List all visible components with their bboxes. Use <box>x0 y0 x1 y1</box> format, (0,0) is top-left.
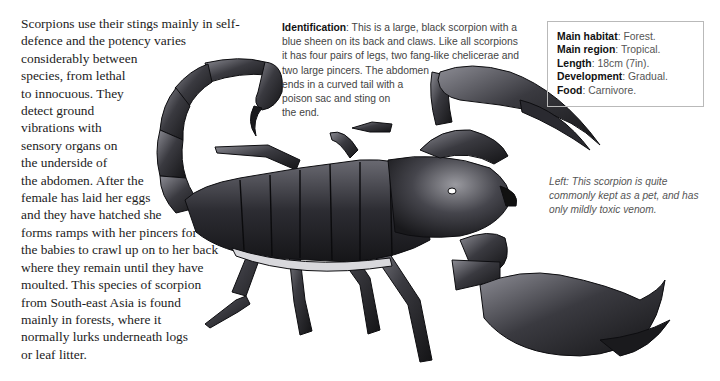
main-text-line: Scorpions use their stings mainly in sel… <box>21 15 261 32</box>
identification-text: it has four pairs of legs, two fang-like… <box>282 49 522 63</box>
fact-value: : Gradual. <box>622 71 668 82</box>
identification-text: the end. <box>282 106 522 120</box>
main-text-line: female has laid her eggs <box>21 189 261 206</box>
fact-value: : 18cm (7in). <box>592 58 650 69</box>
fact-main-habitat: Main habitat: Forest. <box>557 30 703 43</box>
main-text-line: where they remain until they have <box>21 259 261 276</box>
identification-text: poison sac and sting on <box>282 92 522 106</box>
fact-main-region: Main region: Tropical. <box>557 43 703 56</box>
main-text-line: moulted. This species of scorpion <box>21 276 261 293</box>
identification-text: ends in a curved tail with a <box>282 78 522 92</box>
fact-development: Development: Gradual. <box>557 70 703 83</box>
main-paragraph: Scorpions use their stings mainly in sel… <box>21 15 261 363</box>
head <box>388 156 517 237</box>
main-text-line: species, from lethal <box>21 67 261 84</box>
main-text-line: from South-east Asia is found <box>21 294 261 311</box>
lower-pincer <box>452 233 670 356</box>
caption-line: Left: This scorpion is quite <box>549 175 719 189</box>
fact-label: Development <box>557 71 622 82</box>
main-text-line: mainly in forests, where it <box>21 311 261 328</box>
main-text-line: the underside of <box>21 154 261 171</box>
main-text-line: sensory organs on <box>21 137 261 154</box>
fact-label: Length <box>557 58 592 69</box>
fact-length: Length: 18cm (7in). <box>557 57 703 70</box>
fact-label: Food <box>557 85 582 96</box>
main-text-line: or leaf litter. <box>21 346 261 363</box>
facts-box: Main habitat: Forest. Main region: Tropi… <box>547 21 704 107</box>
caption-line: only mildly toxic venom. <box>549 203 719 217</box>
identification-text: two large pincers. The abdomen <box>282 64 522 78</box>
main-text-line: the babies to crawl up on to her back <box>21 241 261 258</box>
image-caption: Left: This scorpion is quite commonly ke… <box>549 175 719 218</box>
main-text-line: forms ramps with her pincers for <box>21 224 261 241</box>
main-text-line: considerably between <box>21 50 261 67</box>
main-text-line: the abdomen. After the <box>21 172 261 189</box>
main-text-line: to innocuous. They <box>21 85 261 102</box>
fact-value: : Forest. <box>618 31 656 42</box>
main-text-line: normally lurks underneath logs <box>21 328 261 345</box>
identification-paragraph: Identification: This is a large, black s… <box>282 21 522 120</box>
fact-food: Food: Carnivore. <box>557 84 703 97</box>
main-text-line: vibrations with <box>21 119 261 136</box>
main-text-line: defence and the potency varies <box>21 32 261 49</box>
identification-text: : This is a large, black scorpion with a <box>346 22 517 33</box>
caption-line: commonly kept as a pet, and has <box>549 189 719 203</box>
main-text-line: detect ground <box>21 102 261 119</box>
fact-value: : Carnivore. <box>582 85 636 96</box>
fact-label: Main habitat <box>557 31 618 42</box>
fact-value: : Tropical. <box>615 44 660 55</box>
identification-text: blue sheen on its back and claws. Like a… <box>282 35 522 49</box>
identification-label: Identification <box>282 22 346 33</box>
main-text-line: and they have hatched she <box>21 206 261 223</box>
fact-label: Main region <box>557 44 615 55</box>
